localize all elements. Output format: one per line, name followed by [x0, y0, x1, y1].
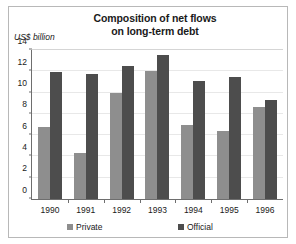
bar-group: [211, 50, 247, 199]
x-tick-mark: [104, 199, 105, 203]
x-tick-mark: [211, 199, 212, 203]
legend-swatch-private-icon: [67, 224, 73, 230]
x-tick-mark: [140, 199, 141, 203]
bar-official-1993: [157, 55, 169, 199]
y-tick-label: 12: [18, 57, 32, 67]
bar-official-1996: [265, 100, 277, 199]
x-tick-label-1995: 1995: [220, 205, 239, 215]
bar-private-1994: [181, 125, 193, 200]
x-tick-label-1996: 1996: [256, 205, 275, 215]
bar-group: [104, 50, 140, 199]
bar-private-1990: [38, 127, 50, 199]
x-tick-label-1990: 1990: [40, 205, 59, 215]
bar-private-1995: [217, 131, 229, 199]
bar-official-1992: [122, 66, 134, 199]
x-tick-mark: [247, 199, 248, 203]
chart-title-line-1: Composition of net flows: [40, 12, 270, 25]
legend-swatch-official-icon: [178, 224, 184, 230]
y-tick-label: 2: [22, 163, 32, 173]
bar-official-1991: [86, 74, 98, 199]
y-tick-label: 4: [22, 142, 32, 152]
bar-private-1991: [74, 153, 86, 199]
x-tick-label-1992: 1992: [112, 205, 131, 215]
y-tick-label: 14: [18, 36, 32, 46]
bar-official-1990: [50, 72, 62, 199]
bar-private-1992: [110, 93, 122, 199]
x-tick-mark: [175, 199, 176, 203]
legend-label-official: Official: [187, 222, 213, 232]
chart-title: Composition of net flows on long-term de…: [40, 12, 270, 38]
chart-title-line-2: on long-term debt: [40, 25, 270, 38]
y-tick-label: 10: [18, 78, 32, 88]
bar-group: [247, 50, 283, 199]
legend-item-official: Official: [178, 222, 213, 232]
legend-label-private: Private: [76, 222, 102, 232]
bar-group: [32, 50, 68, 199]
chart-figure: Composition of net flows on long-term de…: [0, 0, 296, 244]
x-tick-mark: [68, 199, 69, 203]
y-tick-label: 0: [22, 185, 32, 195]
bar-group: [68, 50, 104, 199]
x-tick-label-1991: 1991: [76, 205, 95, 215]
bar-official-1994: [193, 81, 205, 199]
bar-group: [140, 50, 176, 199]
chart-legend: Private Official: [31, 222, 283, 234]
x-tick-label-1993: 1993: [148, 205, 167, 215]
x-tick-label-1994: 1994: [184, 205, 203, 215]
bar-private-1993: [145, 71, 157, 199]
y-tick-label: 6: [22, 121, 32, 131]
bar-official-1995: [229, 77, 241, 199]
legend-item-private: Private: [67, 222, 102, 232]
bar-private-1996: [253, 107, 265, 199]
plot-area: 024681012141990199119921993199419951996: [31, 50, 283, 200]
y-tick-label: 8: [22, 99, 32, 109]
bar-group: [175, 50, 211, 199]
